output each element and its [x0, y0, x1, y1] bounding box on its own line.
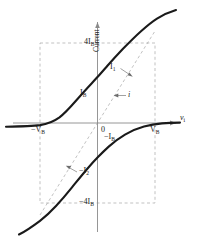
- annotation-IB: IB: [80, 89, 86, 97]
- leader-arrow-I1: [128, 73, 133, 77]
- curve-upper-branch: [6, 10, 176, 127]
- ann-I1-sub: 1: [113, 66, 116, 72]
- x-axis-title-sub: i: [184, 117, 186, 123]
- tick-4IB-sub: B: [91, 41, 95, 47]
- annotation-negIB: −IB: [104, 133, 115, 141]
- tick-label-neg4IB: −4IB: [79, 198, 94, 206]
- x-axis-title: vi: [180, 114, 185, 122]
- tick-VB-sub: B: [156, 129, 160, 135]
- annotation-negI2: −I2: [79, 167, 89, 175]
- tick-VB-main: V: [150, 125, 156, 134]
- tick-label-VB: VB: [150, 126, 160, 134]
- plot-canvas: [0, 0, 204, 245]
- tick-neg4IB-sub: B: [90, 201, 94, 207]
- tick-negVB-sub: B: [41, 129, 45, 135]
- iv-characteristic-figure: Current vi 4IB −4IB −VB VB 0 I1 IB i −IB…: [0, 0, 204, 245]
- annotation-i: i: [128, 91, 130, 99]
- tick-4IB-main: 4I: [84, 37, 91, 46]
- tick-neg4IB-main: −4I: [79, 197, 90, 206]
- tick-negVB-main: −V: [31, 125, 41, 134]
- leader-arrow-negI2: [66, 166, 71, 170]
- ann-IB-sub: B: [83, 92, 87, 98]
- y-axis-arrowhead: [95, 22, 100, 28]
- curve-lower-branch: [19, 123, 180, 235]
- annotation-I1: I1: [110, 63, 115, 71]
- ann-negIB-sub: B: [111, 136, 115, 142]
- ann-negI2-sub: 2: [86, 170, 89, 176]
- tick-label-negVB: −VB: [31, 126, 45, 134]
- tick-label-4IB: 4IB: [84, 38, 94, 46]
